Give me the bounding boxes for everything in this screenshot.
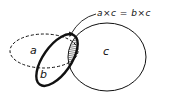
equation-annotation: a×c = b×c bbox=[97, 9, 151, 18]
set-a-label: a bbox=[30, 45, 37, 56]
set-c-label: c bbox=[103, 46, 109, 57]
annotation-arrow bbox=[71, 14, 96, 34]
set-b-ellipse bbox=[28, 27, 85, 92]
venn-diagram bbox=[0, 0, 178, 100]
set-a-ellipse bbox=[10, 34, 78, 68]
set-b-label: b bbox=[40, 69, 47, 80]
